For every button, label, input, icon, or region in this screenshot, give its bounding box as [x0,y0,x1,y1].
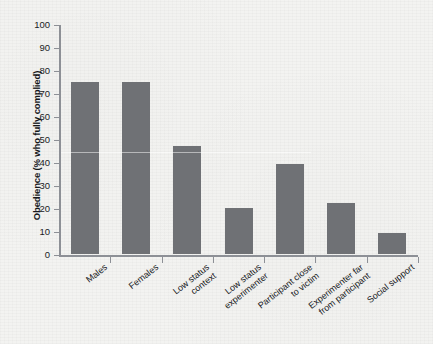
y-axis-tick: 90 [54,48,59,49]
y-axis-tick-label: 10 [26,226,50,237]
y-axis-tick: 80 [54,71,59,72]
x-axis-tick [367,257,368,263]
y-axis-tick: 100 [54,25,59,26]
y-axis-tick: 40 [54,163,59,164]
x-axis-tick [418,257,419,263]
x-axis-tick [162,257,163,263]
bar [122,82,150,255]
y-axis-tick: 50 [54,140,59,141]
x-axis-label: Males [8,262,109,344]
y-axis-tick-label: 0 [26,249,50,260]
bar [173,146,201,254]
y-axis-tick-label: 70 [26,88,50,99]
y-axis-tick: 0 [54,255,59,256]
y-axis-tick-label: 80 [26,65,50,76]
bar [276,164,304,254]
y-axis-tick: 60 [54,117,59,118]
y-axis-tick-label: 90 [26,42,50,53]
x-axis-line [59,255,418,257]
bar [327,203,355,254]
y-axis-tick: 70 [54,94,59,95]
x-axis-tick [110,257,111,263]
y-axis-tick: 30 [54,186,59,187]
y-axis-tick: 10 [54,232,59,233]
y-axis-tick-label: 40 [26,157,50,168]
bar [71,82,99,255]
y-axis-line [59,25,61,257]
bar [225,208,253,254]
y-axis-tick-label: 50 [26,134,50,145]
y-axis-tick-label: 30 [26,180,50,191]
y-axis-tick-label: 100 [26,19,50,30]
x-axis-tick [264,257,265,263]
plot-area: 1009080706050403020100 [59,25,418,256]
y-axis-tick: 20 [54,209,59,210]
y-axis-tick-label: 20 [26,203,50,214]
x-axis-tick [213,257,214,263]
bar [378,233,406,254]
x-axis-tick [315,257,316,263]
obedience-bar-chart: Obedience (% who fully complied) 1009080… [0,0,433,344]
y-axis-tick-label: 60 [26,111,50,122]
